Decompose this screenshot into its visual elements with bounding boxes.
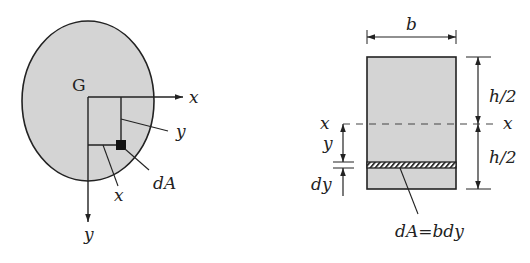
right-figure: b h/2 h/2 x x y dy dA=bdy [311,14,517,241]
neutral-axis-left-label: x [320,113,330,133]
left-figure: G x y y x dA [22,21,199,244]
rectangular-section [367,57,456,189]
element-dA-label: dA [153,173,176,193]
strip-area-label: dA=bdy [395,221,464,241]
area-element-square [116,140,126,150]
y-label: y [322,133,333,153]
centroid-label: G [72,75,86,95]
element-x-label: x [114,185,124,205]
y-axis-label: y [83,224,94,244]
lower-half-label: h/2 [489,147,517,167]
upper-half-label: h/2 [489,86,517,106]
dy-label: dy [311,174,332,194]
width-label: b [406,14,417,34]
diagram-canvas: G x y y x dA b h/2 h/2 x x y [0,0,530,263]
neutral-axis-right-label: x [503,113,513,133]
element-y-label: y [175,121,186,141]
strip-dA [367,162,456,168]
x-axis-label: x [189,87,199,107]
